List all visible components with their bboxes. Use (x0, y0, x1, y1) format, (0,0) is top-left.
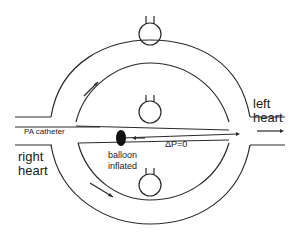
balloon-label: balloon inflated (108, 150, 137, 172)
right-heart-label: right heart (18, 150, 48, 178)
lower-alveolus-icon (139, 168, 161, 196)
balloon-line2: inflated (108, 161, 137, 172)
middle-alveolus-icon (139, 95, 161, 123)
left-heart-line1: left (253, 97, 283, 111)
pa-catheter-label: PA catheter (24, 128, 65, 136)
outer-vessel-bottom-outer (51, 145, 250, 224)
inflated-balloon (116, 130, 126, 146)
outer-vessel-top-inner (76, 63, 229, 122)
balloon-line1: balloon (108, 150, 137, 161)
left-heart-line2: heart (253, 111, 283, 125)
outer-vessel-top-outer (51, 40, 250, 117)
right-heart-line1: right (18, 150, 48, 164)
right-heart-line2: heart (18, 164, 48, 178)
delta-p-label: ΔP=0 (165, 140, 187, 149)
left-heart-label: left heart (253, 97, 283, 125)
